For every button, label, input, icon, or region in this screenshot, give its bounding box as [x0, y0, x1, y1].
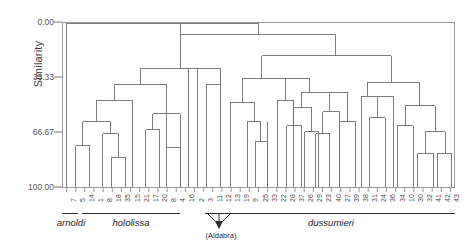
leaf-label: 5 [79, 198, 86, 202]
group-bar-dussumieri [205, 213, 455, 214]
leaf-label: 1 [97, 198, 104, 202]
leaf-label: 32 [426, 194, 433, 202]
leaf-label: 39 [353, 194, 360, 202]
leaf-label: 4 [179, 198, 186, 202]
plot-area [62, 22, 455, 188]
leaf-label: 42 [444, 194, 451, 202]
leaf-label: 43 [453, 194, 460, 202]
aldabra-arrow-icon [205, 212, 237, 230]
group-bar-hololissa [82, 213, 180, 214]
leaf-label: 3 [207, 198, 214, 202]
leaf-label: 9 [252, 198, 259, 202]
leaf-label: 11 [216, 195, 223, 202]
y-tick-100: 100.00 [14, 183, 54, 191]
leaf-label: 41 [435, 194, 442, 202]
leaf-label: 29 [316, 194, 323, 202]
y-tick-66: 66.67 [14, 128, 54, 136]
leaf-label: 7 [70, 198, 77, 202]
y-tick-0: 0.00 [14, 18, 54, 26]
leaf-label: 2 [198, 198, 205, 202]
y-tick-33: 33.33 [14, 73, 54, 81]
group-name-dussumieri: dussumieri [283, 217, 379, 228]
aldabra-annotation: (Aldabra) [185, 231, 257, 240]
leaf-label: 16 [188, 194, 195, 202]
leaf-label: 17 [152, 194, 159, 202]
leaf-label: 27 [344, 194, 351, 202]
leaf-label: 33 [271, 194, 278, 202]
leaf-label: 34 [399, 194, 406, 202]
group-name-arnoldi: arnoldi [38, 217, 104, 228]
leaf-label: 19 [243, 194, 250, 202]
leaf-label: 31 [371, 194, 378, 202]
leaf-label: 38 [362, 194, 369, 202]
leaf-label: 22 [280, 194, 287, 202]
dendrogram-tree [63, 23, 454, 187]
leaf-label: 24 [380, 194, 387, 202]
leaf-label: 8 [106, 198, 113, 202]
leaf-label: 18 [115, 194, 122, 202]
leaf-label: 35 [124, 194, 131, 202]
leaf-label: 13 [234, 194, 241, 202]
leaf-label: 36 [389, 194, 396, 202]
leaf-label: 20 [161, 194, 168, 202]
leaf-label: 23 [325, 194, 332, 202]
leaf-label: 15 [134, 194, 141, 202]
leaf-label: 40 [335, 194, 342, 202]
leaf-label: 12 [225, 194, 232, 202]
group-bar-arnoldi [62, 213, 78, 214]
leaf-label: 8 [170, 198, 177, 202]
group-name-hololissa: hololissa [98, 217, 164, 228]
leaf-label: 25 [262, 194, 269, 202]
leaf-label: 10 [408, 194, 415, 202]
leaf-label: 14 [88, 194, 95, 202]
leaf-label: 37 [298, 194, 305, 202]
leaf-label: 30 [417, 194, 424, 202]
leaf-label: 21 [143, 194, 150, 202]
leaf-label: 26 [307, 194, 314, 202]
dendrogram-figure: Similarity 0.00 33.33 66.67 100.00 [0, 0, 468, 248]
leaf-label: 28 [289, 194, 296, 202]
